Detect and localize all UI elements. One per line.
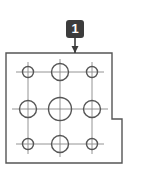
part-diagram-svg: 1 bbox=[0, 0, 160, 175]
technical-drawing-canvas: 1 bbox=[0, 0, 160, 175]
callout-badge-label: 1 bbox=[71, 21, 78, 36]
